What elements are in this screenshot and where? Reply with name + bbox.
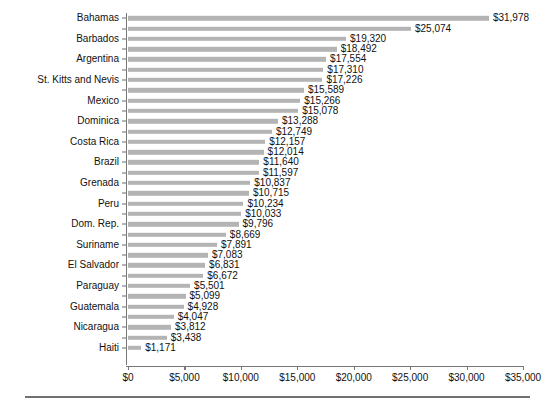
x-axis-tick-label: $20,000 [336,372,372,383]
bar-value-label: $25,074 [415,24,451,34]
x-axis-tick-label: $0 [122,372,133,383]
x-axis-tick [184,366,185,370]
x-axis-tick-label: $5,000 [169,372,200,383]
bar-row[interactable]: Dom. Rep.$9,796 [0,220,545,230]
category-label: Peru [98,199,119,209]
bar[interactable] [128,212,241,216]
bar[interactable] [128,26,411,30]
x-axis-tick-label: $30,000 [448,372,484,383]
bar[interactable] [128,294,186,298]
category-label: Suriname [76,240,119,250]
bar[interactable] [128,88,304,92]
bar-row[interactable]: Nicaragua$3,812 [0,323,545,333]
y-axis-line [126,13,127,365]
category-label: Bahamas [77,13,119,23]
category-label: Mexico [87,96,119,106]
bar[interactable] [128,98,300,102]
bar[interactable] [128,253,208,257]
bar[interactable] [128,304,184,308]
horizontal-bar-chart: Bahamas$31,978$25,074Barbados$19,320$18,… [0,0,545,408]
category-label: Haiti [99,343,119,353]
category-label: Argentina [76,54,119,64]
category-label: Dominica [77,116,119,126]
bar[interactable] [128,150,264,154]
bar[interactable] [128,222,239,226]
x-axis-tick [241,366,242,370]
bar[interactable] [128,232,226,236]
bar-row[interactable]: Argentina$17,554 [0,55,545,65]
bar-row[interactable]: Haiti$1,171 [0,343,545,353]
bar-row[interactable]: $3,438 [0,333,545,343]
category-label: St. Kitts and Nevis [37,75,119,85]
bar-value-label: $31,978 [493,13,529,23]
x-axis-tick-label: $10,000 [223,372,259,383]
bar-row[interactable]: $15,589 [0,86,545,96]
bar[interactable] [128,119,278,123]
bar[interactable] [128,315,174,319]
bar-row[interactable]: Barbados$19,320 [0,34,545,44]
bar[interactable] [128,78,322,82]
plot-area: Bahamas$31,978$25,074Barbados$19,320$18,… [0,0,545,370]
bar[interactable] [128,160,259,164]
x-axis-tick [128,366,129,370]
bar[interactable] [128,37,346,41]
bar-value-label: $1,171 [145,343,176,353]
x-axis-tick-label: $15,000 [279,372,315,383]
bar[interactable] [128,201,243,205]
bar-row[interactable]: Mexico$15,266 [0,96,545,106]
bar[interactable] [128,129,272,133]
bar[interactable] [128,274,203,278]
bar-row[interactable]: Dominica$13,288 [0,117,545,127]
x-axis-tick [467,366,468,370]
bar[interactable] [128,335,167,339]
bar[interactable] [128,57,326,61]
category-label: Grenada [80,178,119,188]
category-label: Barbados [76,34,119,44]
bar[interactable] [128,325,171,329]
category-label: Brazil [94,157,119,167]
x-axis-tick [354,366,355,370]
category-label: Nicaragua [73,322,119,332]
x-axis-tick-label: $35,000 [505,372,541,383]
category-label: Costa Rica [70,137,119,147]
bar[interactable] [128,181,250,185]
bar-row[interactable]: Suriname$7,891 [0,240,545,250]
x-axis-tick [410,366,411,370]
bar-row[interactable]: El Salvador$6,831 [0,261,545,271]
category-label: Paraguay [76,281,119,291]
bar-row[interactable]: Guatemala$4,928 [0,302,545,312]
bar[interactable] [128,171,259,175]
bar[interactable] [128,346,141,350]
bar-row[interactable]: Bahamas$31,978 [0,14,545,24]
category-label: El Salvador [68,260,119,270]
x-axis-tick [297,366,298,370]
x-axis-line [126,366,524,367]
category-label: Dom. Rep. [71,219,119,229]
x-axis-tick-label: $25,000 [392,372,428,383]
bar-row[interactable]: St. Kitts and Nevis$17,226 [0,75,545,85]
bar[interactable] [128,140,265,144]
bar[interactable] [128,191,249,195]
bar[interactable] [128,68,323,72]
bar[interactable] [128,243,217,247]
x-axis-tick [523,366,524,370]
bar[interactable] [128,284,190,288]
bar[interactable] [128,263,205,267]
bar-row[interactable]: Paraguay$5,501 [0,281,545,291]
category-label: Guatemala [70,302,119,312]
footer-divider [25,396,530,398]
bar[interactable] [128,109,298,113]
bar[interactable] [128,16,489,20]
bar[interactable] [128,47,337,51]
